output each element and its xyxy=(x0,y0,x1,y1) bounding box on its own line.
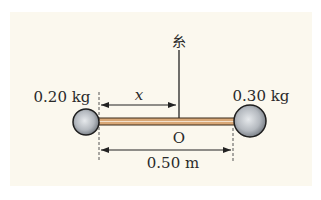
pivot-label: O xyxy=(173,129,185,147)
left-mass-label: 0.20 kg xyxy=(34,88,91,106)
right-mass-ball xyxy=(234,105,266,137)
diagram-canvas: 糸 x 0.20 kg 0.30 kg O 0.50 m xyxy=(0,0,321,200)
balance-rod-diagram: 糸 x 0.20 kg 0.30 kg O 0.50 m xyxy=(0,0,321,200)
x-distance-label: x xyxy=(135,86,144,104)
left-mass-ball xyxy=(73,109,99,135)
right-mass-label: 0.30 kg xyxy=(233,87,290,105)
rod-length-label: 0.50 m xyxy=(147,154,199,172)
string-label: 糸 xyxy=(172,33,186,49)
